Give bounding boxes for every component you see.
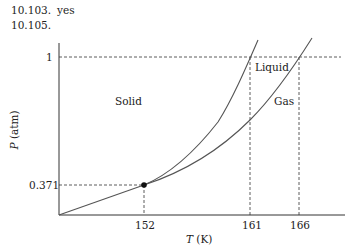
figure: 10.103. yes 10.105. Solid Liquid Gas 1 0… [0, 0, 347, 247]
fusion-curve [144, 40, 258, 185]
ytick-0371: 0.371 [29, 179, 59, 191]
xtick-152: 152 [135, 219, 155, 231]
sublimation-curve [59, 185, 144, 215]
y-axis-label: P (atm) [8, 110, 20, 149]
x-axis-label: T (K) [186, 233, 212, 245]
region-solid: Solid [115, 95, 142, 107]
xtick-166: 166 [290, 219, 310, 231]
phase-diagram [0, 0, 347, 247]
region-gas: Gas [274, 95, 294, 107]
region-liquid: Liquid [255, 61, 289, 73]
triple-point-marker [141, 182, 147, 188]
xtick-161: 161 [242, 219, 262, 231]
ytick-1: 1 [46, 51, 53, 63]
